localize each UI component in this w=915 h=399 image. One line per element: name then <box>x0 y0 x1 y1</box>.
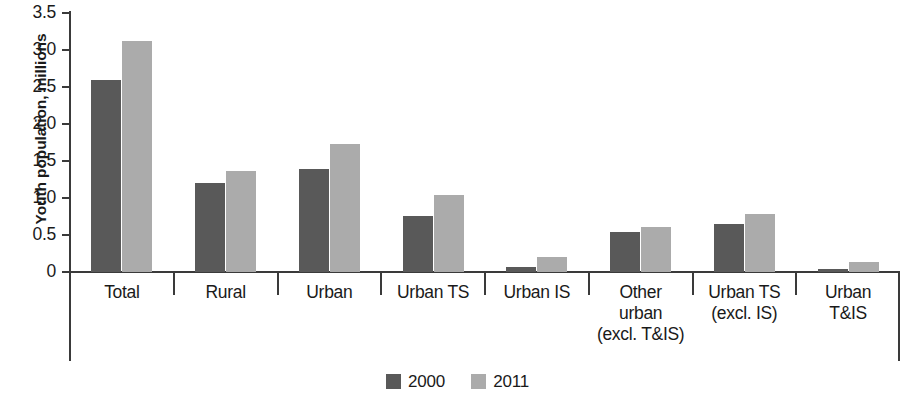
y-axis-tick-label: 0.5 <box>2 226 56 244</box>
x-axis-category-label: Urban TS (excl. IS) <box>693 282 797 324</box>
legend-swatch-icon <box>386 374 401 389</box>
x-axis-category-label: Urban TS <box>381 282 485 303</box>
y-axis-tick-label: 1.5 <box>2 152 56 170</box>
legend-label: 2011 <box>493 373 529 390</box>
bar-2011-7 <box>849 262 879 272</box>
legend-label: 2000 <box>408 373 445 390</box>
y-axis-tick-label: 0 <box>2 263 56 281</box>
y-axis-tick-label: 2.0 <box>2 115 56 133</box>
bar-2011-6 <box>745 214 775 272</box>
legend-item-2011: 2011 <box>471 373 529 390</box>
bar-2000-4 <box>506 267 536 272</box>
x-axis-category-label: Urban IS <box>485 282 589 303</box>
legend-item-2000: 2000 <box>386 373 445 390</box>
bar-chart: Youth population, millions 3.53.02.52.01… <box>0 0 915 399</box>
y-axis-tick-label: 2.5 <box>2 78 56 96</box>
bar-2000-3 <box>403 216 433 272</box>
y-axis-tick-label: 3.5 <box>2 4 56 22</box>
x-axis-category-label: Urban <box>278 282 382 303</box>
bar-2011-1 <box>226 171 256 272</box>
x-axis-category-label: Urban T&IS <box>796 282 900 324</box>
x-axis-category-label: Rural <box>174 282 278 303</box>
y-axis-tick-label: 3.0 <box>2 41 56 59</box>
bar-2000-6 <box>714 224 744 272</box>
bar-2011-5 <box>641 227 671 272</box>
x-axis-category-label: Other urban (excl. T&IS) <box>589 282 693 345</box>
bar-2000-0 <box>91 80 121 272</box>
bar-2011-0 <box>122 41 152 272</box>
bar-2000-2 <box>299 169 329 272</box>
bar-2000-1 <box>195 183 225 272</box>
chart-legend: 20002011 <box>0 373 915 390</box>
bar-2011-4 <box>537 257 567 272</box>
bar-2011-3 <box>434 195 464 272</box>
plot-area <box>70 13 900 272</box>
legend-swatch-icon <box>471 374 486 389</box>
bar-2011-2 <box>330 144 360 272</box>
bar-2000-5 <box>610 232 640 272</box>
x-axis-category-label: Total <box>70 282 174 303</box>
y-axis-tick-label: 1.0 <box>2 189 56 207</box>
bar-2000-7 <box>818 269 848 272</box>
